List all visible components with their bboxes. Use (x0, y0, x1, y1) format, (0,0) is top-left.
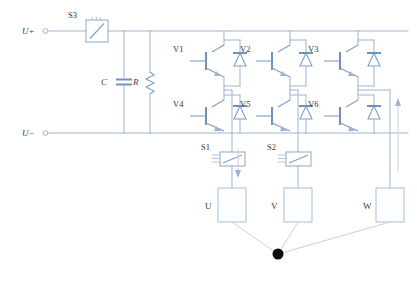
w-current-direction-indicator (395, 98, 401, 172)
contactor-s3[interactable] (86, 17, 108, 42)
neutral-node-icon (273, 249, 284, 260)
transistor-v6-label: V6 (308, 99, 318, 109)
transistor-v5[interactable]: V5 (240, 99, 290, 131)
transistor-v4-label: V4 (173, 99, 184, 109)
phase-winding-w[interactable]: W (363, 188, 404, 222)
contactor-s3-label: S3 (68, 10, 77, 20)
resistor-icon (146, 72, 154, 94)
dc-link-capacitor-branch: C (101, 31, 132, 133)
v1-collector-slant (212, 45, 224, 52)
freewheel-diode-icon (368, 53, 380, 66)
current-sensor-s2[interactable]: S2 (267, 142, 311, 188)
v2-emitter-arrow-icon (280, 71, 287, 76)
v5-collector-slant (278, 100, 290, 107)
phase-leg-w: V3 V6 (308, 31, 401, 188)
diode-v6 (358, 95, 381, 133)
dc-negative-terminal-node (43, 131, 48, 136)
v1-emitter-arrow-icon (214, 71, 221, 76)
current-direction-arrow-icon (235, 170, 241, 178)
circuit-diagram-svg: C R V1 (0, 0, 417, 289)
v3-emitter-arrow-icon (348, 71, 355, 76)
phase-u-label: U (205, 201, 212, 211)
transistor-v1-label: V1 (173, 44, 183, 54)
capacitor-label: C (101, 77, 108, 87)
dc-positive-terminal-node (43, 29, 48, 34)
phase-v-label: V (271, 201, 278, 211)
v2-collector-slant (278, 45, 290, 52)
freewheel-diode-icon (368, 106, 380, 119)
transistor-v2[interactable]: V2 (240, 44, 290, 90)
v4-collector-slant (212, 100, 224, 107)
current-sensor-s1-label: S1 (201, 142, 210, 152)
contactor-hatch-2 (96, 17, 97, 20)
current-sensor-s2-label: S2 (267, 142, 276, 152)
current-direction-arrow-icon (395, 98, 401, 106)
transistor-v4[interactable]: V4 (173, 99, 224, 131)
phase-leg-u: V1 V4 (173, 31, 247, 152)
transistor-v3[interactable]: V3 (308, 44, 358, 90)
transistor-v6[interactable]: V6 (308, 99, 358, 131)
transistor-v1[interactable]: V1 (173, 44, 224, 90)
resistor-label: R (132, 77, 139, 87)
dc-positive-terminal-label: U+ (22, 26, 35, 36)
transistor-v5-label: V5 (240, 99, 250, 109)
transistor-v2-label: V2 (240, 44, 250, 54)
u-to-neutral-wire (232, 222, 278, 254)
phase-u-box (218, 188, 246, 222)
freewheel-diode-icon (234, 53, 246, 66)
phase-w-label: W (363, 201, 372, 211)
phase-leg-v: V2 V5 (240, 31, 313, 152)
phase-w-box (376, 188, 404, 222)
diode-v3 (358, 40, 381, 86)
v6-collector-slant (346, 100, 358, 107)
dc-negative-input-branch (43, 131, 408, 136)
v3-collector-slant (346, 45, 358, 52)
phase-winding-u[interactable]: U (205, 188, 246, 222)
phase-v-box (284, 188, 312, 222)
transistor-v3-label: V3 (308, 44, 318, 54)
dc-negative-terminal-label: U− (22, 128, 35, 138)
dc-link-resistor-branch: R (132, 31, 154, 133)
neutral-star-point-connections (232, 222, 390, 260)
circuit-diagram-canvas: C R V1 (0, 0, 417, 289)
phase-winding-v[interactable]: V (271, 188, 312, 222)
freewheel-diode-icon (300, 53, 312, 66)
